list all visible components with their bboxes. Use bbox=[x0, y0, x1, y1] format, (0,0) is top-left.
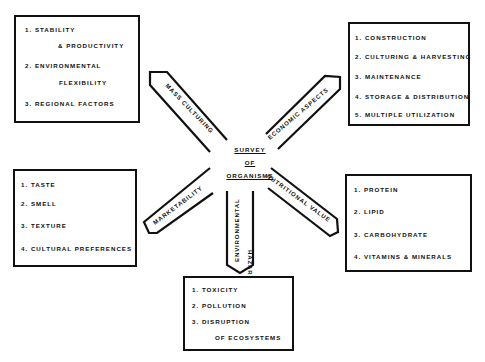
box-item: 1. CONSTRUCTION bbox=[355, 34, 427, 41]
box-item: 3. REGIONAL FACTORS bbox=[25, 100, 115, 107]
box-item: 2. ENVIRONMENTAL bbox=[25, 62, 101, 69]
arrow-label-nutritional-value: NUTRITIONAL VALUE bbox=[265, 173, 331, 223]
box-item: 1. STABILITY bbox=[25, 26, 75, 33]
box-item: 3. CARBOHYDRATE bbox=[354, 231, 428, 238]
arrow-marketability: MARKETABILITY bbox=[144, 168, 213, 233]
arrow-label-environmental-hazards-1: ENVIRONMENTAL bbox=[234, 198, 240, 262]
box-item: 5. MULTIPLE UTILIZATION bbox=[355, 111, 455, 118]
box-item: 1. TASTE bbox=[21, 181, 56, 188]
box-item: 2. POLLUTION bbox=[192, 302, 247, 309]
box-item: 2. CULTURING & HARVESTING bbox=[355, 53, 471, 60]
box-item: 3. MAINTENANCE bbox=[355, 73, 422, 80]
box-item: 4. CULTURAL PREFERENCES bbox=[21, 245, 132, 252]
arrow-economic-aspects: ECONOMIC ASPECTS bbox=[266, 76, 340, 149]
box-marketability: 1. TASTE 2. SMELL 3. TEXTURE 4. CULTURAL… bbox=[13, 169, 137, 267]
box-environmental-hazards: 1. TOXICITY 2. POLLUTION 3. DISRUPTION O… bbox=[183, 276, 294, 351]
box-item: FLEXIBILITY bbox=[59, 79, 107, 86]
box-item: 2. SMELL bbox=[21, 200, 57, 207]
box-mass-culturing: 1. STABILITY & PRODUCTIVITY 2. ENVIRONME… bbox=[14, 15, 140, 123]
box-economic-aspects: 1. CONSTRUCTION 2. CULTURING & HARVESTIN… bbox=[348, 22, 470, 126]
box-nutritional-value: 1. PROTEIN 2. LIPID 3. CARBOHYDRATE 4. V… bbox=[345, 174, 472, 272]
arrow-label-economic-aspects: ECONOMIC ASPECTS bbox=[267, 87, 330, 141]
box-item: 4. VITAMINS & MINERALS bbox=[354, 253, 452, 260]
arrow-environmental-hazards: ENVIRONMENTAL HAZARDS bbox=[227, 191, 253, 286]
box-item: 1. PROTEIN bbox=[354, 186, 398, 193]
center-title-of: OF bbox=[226, 159, 274, 166]
box-item: 2. LIPID bbox=[354, 208, 385, 215]
box-item: 3. TEXTURE bbox=[21, 222, 67, 229]
center-title-survey: SURVEY bbox=[226, 146, 274, 153]
box-item: 1. TOXICITY bbox=[192, 286, 238, 293]
box-item: OF ECOSYSTEMS bbox=[215, 334, 281, 341]
arrow-mass-culturing: MASS CULTURING bbox=[150, 72, 227, 152]
box-item: 3. DISRUPTION bbox=[192, 318, 250, 325]
center-title-organisms: ORGANISMS bbox=[218, 172, 282, 179]
box-item: 4. STORAGE & DISTRIBUTION bbox=[355, 93, 469, 100]
box-item: & PRODUCTIVITY bbox=[58, 42, 124, 49]
